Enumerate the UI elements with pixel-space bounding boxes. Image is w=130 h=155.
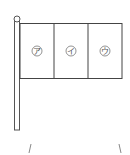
section-u: ウ — [100, 46, 110, 56]
flag-diagram: ア イ ウ — [0, 0, 130, 155]
pole-knob — [14, 16, 20, 22]
section-i: イ — [66, 46, 76, 56]
section-label: ウ — [101, 47, 109, 56]
bottom-mark-right — [119, 144, 121, 153]
section-label: ア — [33, 47, 41, 56]
flag-pole — [15, 19, 20, 130]
bottom-mark-left — [29, 144, 31, 153]
section-label: イ — [67, 47, 75, 56]
section-a: ア — [32, 46, 42, 56]
